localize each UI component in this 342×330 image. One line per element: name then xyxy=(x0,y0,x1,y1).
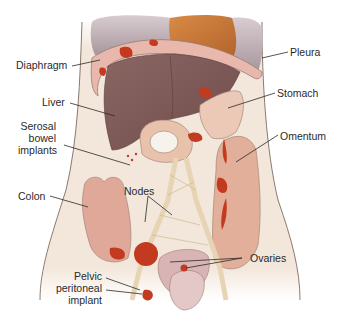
label-stomach: Stomach xyxy=(277,87,318,99)
label-pleura: Pleura xyxy=(290,46,320,58)
label-pelvic-peritoneal-implant: Pelvic peritoneal implant xyxy=(50,270,102,306)
label-liver: Liver xyxy=(42,96,65,108)
label-ovaries: Ovaries xyxy=(250,252,286,264)
label-colon: Colon xyxy=(18,190,45,202)
label-diaphragm: Diaphragm xyxy=(16,59,67,71)
label-serosal-bowel-implants: Serosal bowel implants xyxy=(18,120,56,156)
anatomy-diagram: Diaphragm Pleura Liver Stomach Serosal b… xyxy=(0,0,342,330)
label-nodes: Nodes xyxy=(124,185,154,197)
bladder xyxy=(170,270,205,310)
label-omentum: Omentum xyxy=(280,130,326,142)
omentum xyxy=(213,136,261,269)
